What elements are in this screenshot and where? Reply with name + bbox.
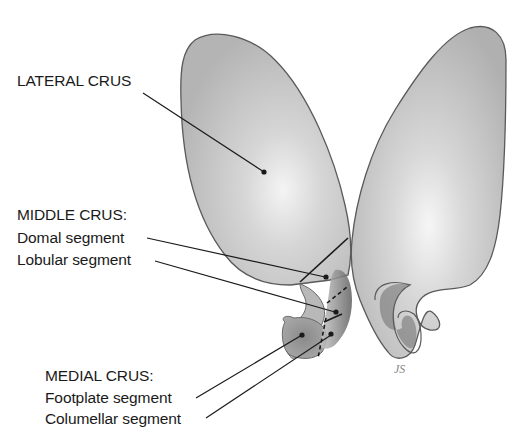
- columellar-segment-leader: [206, 335, 331, 418]
- footplate-segment-label: Footplate segment: [45, 387, 172, 409]
- artist-signature: JS: [394, 362, 405, 376]
- middle-crus-heading: MIDDLE CRUS:: [17, 204, 127, 226]
- lobular-segment-dot: [333, 309, 338, 314]
- lateral-crus-label: LATERAL CRUS: [17, 70, 131, 92]
- footplate-segment-dot: [299, 332, 304, 337]
- columellar-segment-dot: [328, 331, 333, 336]
- lateral-crus-dot: [261, 169, 266, 174]
- domal-segment-label: Domal segment: [17, 227, 124, 249]
- medial-crus-heading: MEDIAL CRUS:: [45, 365, 153, 387]
- right-lateral-crus-shape: [351, 27, 506, 359]
- left-lateral-crus-shape: [181, 34, 351, 285]
- lobular-segment-label: Lobular segment: [17, 249, 131, 271]
- columellar-segment-label: Columellar segment: [45, 408, 181, 430]
- footplate-segment-leader: [196, 335, 302, 398]
- domal-segment-dot: [323, 274, 328, 279]
